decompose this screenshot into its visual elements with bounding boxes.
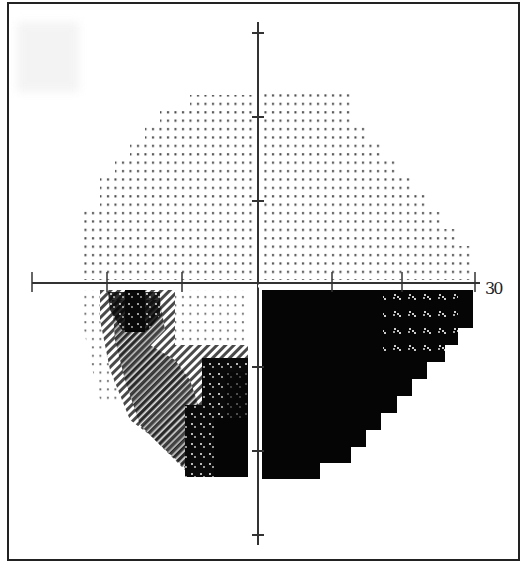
dot-row [264, 161, 395, 178]
dot-row [160, 110, 254, 127]
superior-temporal-quadrant [84, 95, 254, 280]
inferior-temporal-quadrant [84, 290, 248, 477]
dot-row [264, 246, 470, 280]
axis-tick-label-30: 30 [485, 279, 501, 298]
scotoma-row [262, 447, 351, 463]
dot-row [145, 127, 254, 144]
relative-defect [383, 290, 458, 345]
visual-field-plot [0, 0, 528, 567]
scotoma-row [262, 396, 397, 413]
scotoma-row [262, 362, 427, 379]
dot-row [264, 90, 352, 127]
scotoma-row [262, 430, 366, 447]
dot-row [264, 195, 425, 212]
inferior-nasal-relative-defect [383, 290, 458, 362]
dot-row [264, 178, 410, 195]
dot-row [100, 178, 254, 210]
dot-row [264, 212, 440, 229]
dot-row [130, 144, 254, 161]
dot-row [264, 127, 365, 144]
dot-row [84, 210, 254, 280]
superior-nasal-quadrant [264, 90, 470, 280]
dot-row [264, 229, 455, 246]
dot-row [264, 144, 380, 161]
scotoma-row [262, 413, 381, 430]
relative-defect [430, 345, 445, 362]
dot-row [190, 95, 254, 110]
dot-row [115, 161, 254, 178]
scotoma-row [262, 379, 412, 396]
scotoma-row [262, 463, 320, 479]
axes [32, 22, 480, 545]
